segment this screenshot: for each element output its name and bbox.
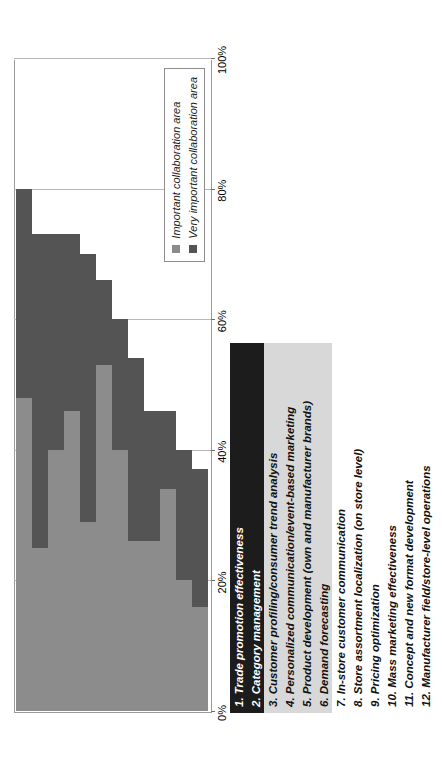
legend-swatch-important-icon <box>172 245 180 253</box>
value-axis-labels: 0%20%40%60%80%100% <box>212 60 228 713</box>
bar-segment-important <box>144 541 160 711</box>
axis-tick-label: 40% <box>216 441 228 463</box>
bar-segment-very-important <box>64 234 80 410</box>
bar-segment-very-important <box>96 280 112 365</box>
bar-row <box>16 60 32 711</box>
category-label: 11. Concept and new format development <box>400 343 417 713</box>
category-label: 2. Category management <box>247 343 264 713</box>
bar-segment-very-important <box>48 234 64 449</box>
category-label: 9. Pricing optimization <box>366 343 383 713</box>
bar-segment-important <box>16 398 32 711</box>
bar-segment-important <box>48 450 64 711</box>
bar-row <box>144 60 160 711</box>
bar-segment-important <box>160 489 176 711</box>
bar-segment-important <box>176 580 192 711</box>
plot-area: Important collaboration area Very import… <box>14 60 212 713</box>
bar-segment-important <box>192 607 208 711</box>
bar-segment-very-important <box>192 469 208 606</box>
bar-row <box>128 60 144 711</box>
plot-block: Important collaboration area Very import… <box>14 60 212 713</box>
axis-tick-label: 20% <box>216 571 228 593</box>
axis-tick <box>211 58 215 59</box>
category-label: 8. Store assortment localization (on sto… <box>349 343 366 713</box>
bar-segment-very-important <box>112 319 128 450</box>
bar-segment-very-important <box>16 189 32 398</box>
category-label: 4. Personalized communication/event-base… <box>281 343 298 713</box>
bar-segment-very-important <box>160 411 176 489</box>
category-label: 6. Demand forecasting <box>315 343 332 713</box>
stacked-bar-chart-figure: Important collaboration area Very import… <box>0 0 442 757</box>
bar-row <box>32 60 48 711</box>
bar-segment-very-important <box>80 254 96 522</box>
axis-tick-label: 100% <box>216 46 228 74</box>
category-label: 10. Mass marketing effectiveness <box>383 343 400 713</box>
axis-tick-label: 80% <box>216 180 228 202</box>
chart-legend: Important collaboration area Very import… <box>164 68 205 262</box>
bar-segment-very-important <box>32 234 48 547</box>
gridline <box>14 58 211 59</box>
bar-segment-important <box>112 450 128 711</box>
legend-item: Very important collaboration area <box>187 77 199 253</box>
bar-segment-very-important <box>144 411 160 542</box>
bar-row <box>64 60 80 711</box>
legend-item: Important collaboration area <box>170 77 182 253</box>
category-labels: 1. Trade promotion effectiveness2. Categ… <box>228 60 442 713</box>
rotated-figure-wrapper: Important collaboration area Very import… <box>0 0 442 757</box>
bar-row <box>112 60 128 711</box>
bar-row <box>48 60 64 711</box>
bar-segment-important <box>128 541 144 711</box>
bar-segment-important <box>96 365 112 711</box>
category-label: 3. Customer profiling/consumer trend ana… <box>264 343 281 713</box>
bar-segment-very-important <box>128 358 144 541</box>
bar-segment-important <box>80 522 96 711</box>
bar-row <box>96 60 112 711</box>
category-label: 12. Manufacturer field/store-level opera… <box>417 343 434 713</box>
category-label: 5. Product development (own and manufact… <box>298 343 315 713</box>
bar-segment-very-important <box>176 450 192 581</box>
category-label: 7. In-store customer communication <box>332 343 349 713</box>
legend-label: Important collaboration area <box>170 102 182 239</box>
axis-tick-label: 0% <box>216 705 228 721</box>
legend-label: Very important collaboration area <box>187 77 199 239</box>
bar-segment-important <box>64 411 80 711</box>
axis-tick-label: 60% <box>216 310 228 332</box>
bar-row <box>80 60 96 711</box>
legend-swatch-very-important-icon <box>189 245 197 253</box>
bar-segment-important <box>32 548 48 711</box>
category-label: 1. Trade promotion effectiveness <box>230 343 247 713</box>
